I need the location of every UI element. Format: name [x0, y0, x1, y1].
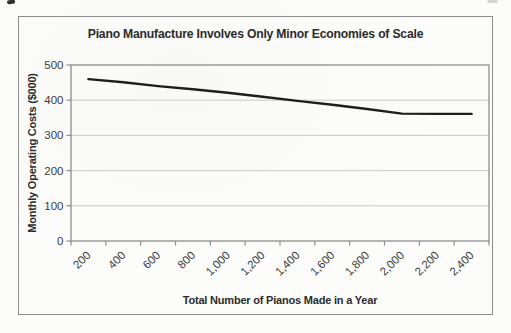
x-tick-label: 1,200	[238, 249, 267, 278]
book-page: Piano Manufacture Involves Only Minor Ec…	[0, 0, 511, 333]
x-tick-label: 600	[140, 249, 162, 271]
x-tick-label: 800	[175, 249, 197, 271]
x-tick-label: 1,000	[203, 249, 232, 278]
y-tick-label: 100	[44, 200, 63, 212]
figure-frame: Piano Manufacture Involves Only Minor Ec…	[18, 16, 493, 315]
y-tick-label: 300	[44, 129, 63, 141]
y-tick-label: 200	[44, 165, 63, 177]
cost-curve	[88, 79, 471, 114]
x-tick-label: 1,600	[308, 249, 337, 278]
y-tick-label: 400	[44, 94, 63, 106]
x-tick-label: 2,200	[412, 249, 441, 278]
stray-ink-mark-right	[487, 0, 498, 3]
x-tick-label: 1,400	[273, 249, 302, 278]
x-tick-label: 1,800	[343, 249, 372, 278]
stray-ink-mark-left	[7, 0, 15, 4]
x-tick-label: 2,400	[447, 249, 476, 278]
plot-frame	[71, 65, 489, 241]
x-tick-label: 2,000	[377, 249, 406, 278]
x-tick-label: 400	[106, 249, 128, 271]
y-tick-label: 0	[57, 235, 63, 247]
line-chart-plot: 01002003004005002004006008001,0001,2001,…	[19, 17, 494, 316]
x-tick-label: 200	[71, 249, 93, 271]
y-tick-label: 500	[44, 59, 63, 71]
